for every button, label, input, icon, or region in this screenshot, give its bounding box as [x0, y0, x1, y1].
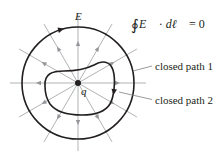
closed-path-2-label: closed path 2 [155, 95, 213, 106]
line-integral-equation: ∮E⃗ · dℓ⃗ = 0 [131, 18, 205, 33]
contour-integral-symbol: ∮ [131, 17, 139, 33]
field-vector: E⃗ [139, 17, 156, 31]
path1-leader-line [133, 66, 152, 71]
path-element-vector: dℓ⃗ [166, 17, 186, 31]
dot-operator: · [156, 17, 166, 31]
equation-rhs: = 0 [186, 17, 205, 31]
path2-leader-line [119, 92, 152, 100]
field-label: E [75, 11, 82, 22]
charge-label: q [81, 86, 87, 97]
closed-path-1-label: closed path 1 [155, 61, 213, 72]
